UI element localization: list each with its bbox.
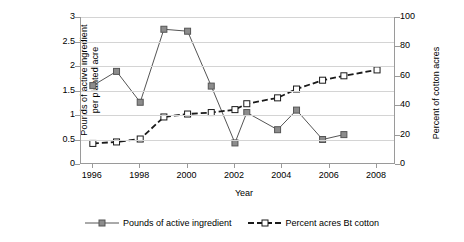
x-axis-tick-mark: [92, 164, 93, 168]
y-axis-left-tick-label: 0.5: [41, 134, 75, 144]
data-point-marker: [341, 73, 347, 79]
x-axis-tick-label: 2000: [164, 170, 210, 180]
data-point-marker: [275, 127, 281, 133]
gridline: [81, 66, 394, 67]
plot-area: [80, 17, 395, 164]
legend-item-1[interactable]: Percent acres Bt cotton: [248, 218, 380, 228]
y-axis-left-tick-label: 2: [41, 60, 75, 70]
data-point-marker: [114, 68, 120, 74]
x-axis-tick-mark: [187, 164, 188, 168]
x-axis-tick-label: 2008: [353, 170, 399, 180]
y-axis-right-tick-label: 80: [400, 40, 434, 50]
y-axis-left-tick-label: 2.5: [41, 36, 75, 46]
data-point-marker: [320, 77, 326, 83]
y-axis-left-tick-label: 0: [41, 158, 75, 168]
data-point-marker: [208, 83, 214, 89]
data-point-marker: [275, 95, 281, 101]
data-point-marker: [374, 67, 380, 73]
x-axis-tick-label: 2004: [258, 170, 304, 180]
legend-label: Pounds of active ingredient: [123, 218, 232, 228]
chart-container: Pounds of active ingredient per planted …: [0, 0, 464, 242]
data-point-marker: [90, 140, 96, 146]
gridline: [81, 42, 394, 43]
x-axis-tick-mark: [281, 164, 282, 168]
gridline: [81, 91, 394, 92]
legend-item-0[interactable]: Pounds of active ingredient: [85, 218, 232, 228]
y-axis-right-tick-label: 60: [400, 70, 434, 80]
y-axis-left-tick-label: 1: [41, 109, 75, 119]
legend-key-icon: [85, 218, 119, 228]
data-point-marker: [244, 101, 250, 107]
x-axis-tick-label: 1998: [116, 170, 162, 180]
gridline: [81, 140, 394, 141]
y-axis-left-tick-label: 1.5: [41, 85, 75, 95]
x-axis-tick-mark: [234, 164, 235, 168]
y-axis-right-tick-label: 100: [400, 11, 434, 21]
chart-legend: Pounds of active ingredientPercent acres…: [0, 218, 464, 228]
y-axis-right-tick-mark: [395, 164, 400, 165]
x-axis-title: Year: [0, 188, 464, 198]
data-point-marker: [232, 140, 238, 146]
x-axis-tick-mark: [329, 164, 330, 168]
data-point-marker: [161, 26, 167, 32]
data-point-marker: [341, 132, 347, 138]
x-axis-tick-mark: [376, 164, 377, 168]
legend-key-icon: [248, 218, 282, 228]
y-axis-right-tick-label: 0: [400, 158, 434, 168]
x-axis-tick-label: 1996: [69, 170, 115, 180]
gridline: [81, 115, 394, 116]
gridline: [81, 17, 394, 18]
data-point-marker: [294, 107, 300, 113]
x-axis-tick-label: 2002: [211, 170, 257, 180]
y-axis-left-tick-mark: [75, 164, 80, 165]
data-point-marker: [185, 28, 191, 34]
data-point-marker: [137, 99, 143, 105]
x-axis-tick-label: 2006: [306, 170, 352, 180]
y-axis-left-tick-label: 3: [41, 11, 75, 21]
y-axis-right-tick-label: 40: [400, 99, 434, 109]
legend-label: Percent acres Bt cotton: [286, 218, 380, 228]
x-axis-tick-mark: [139, 164, 140, 168]
y-axis-right-tick-label: 20: [400, 129, 434, 139]
data-point-marker: [90, 83, 96, 89]
data-point-marker: [232, 107, 238, 113]
